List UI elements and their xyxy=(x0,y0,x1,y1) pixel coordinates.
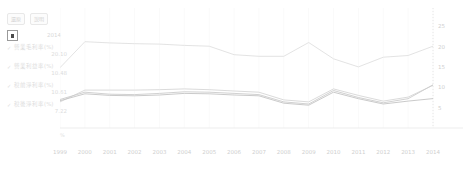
check-icon[interactable]: ✓ xyxy=(7,45,11,51)
check-icon[interactable]: ✓ xyxy=(7,102,11,108)
series-line xyxy=(60,85,433,104)
y-axis-labels: 510152025 xyxy=(430,0,463,173)
x-axis-tick-label: 2009 xyxy=(302,148,316,156)
x-axis-tick-label: 1999 xyxy=(53,148,67,156)
x-axis-tick-label: 2013 xyxy=(401,148,415,156)
help-button[interactable]: 說明 xyxy=(30,13,48,25)
x-axis-tick-label: 2011 xyxy=(351,148,365,156)
x-axis-tick-label: 2006 xyxy=(227,148,241,156)
y-axis-tick-label: 10 xyxy=(438,83,445,91)
series-line xyxy=(60,42,433,68)
filled-square-icon[interactable] xyxy=(7,30,18,41)
check-icon[interactable]: ✓ xyxy=(7,83,11,89)
x-axis-tick-label: 2012 xyxy=(376,148,390,156)
check-icon[interactable]: ✓ xyxy=(7,64,11,70)
x-axis-labels: 1999200020012002200320042005200620072008… xyxy=(0,148,463,160)
y-axis-unit-label: % xyxy=(60,132,65,138)
y-axis-tick-label: 25 xyxy=(438,22,445,30)
x-axis-tick-label: 2007 xyxy=(252,148,266,156)
x-axis-tick-label: 2000 xyxy=(78,148,92,156)
x-axis-tick-label: 2001 xyxy=(103,148,117,156)
x-axis-tick-label: 2005 xyxy=(202,148,216,156)
y-axis-tick-label: 20 xyxy=(438,43,445,51)
x-axis-tick-label: 2002 xyxy=(128,148,142,156)
reset-button[interactable]: 還原 xyxy=(7,13,25,25)
y-axis-tick-label: 5 xyxy=(438,104,442,112)
year-selector[interactable]: 2014 xyxy=(7,30,63,41)
toolbar: 還原 說明 xyxy=(7,13,48,25)
line-chart-svg xyxy=(60,6,463,146)
x-axis-tick-label: 2010 xyxy=(327,148,341,156)
y-axis-tick-label: 15 xyxy=(438,63,445,71)
selected-year-value: 2014 xyxy=(21,31,63,40)
chart-widget: 還原 說明 2014 ✓ 營業毛利率(%) 20.10 ✓ 營業利益率(%) 1… xyxy=(0,0,463,173)
x-axis-tick-label: 2003 xyxy=(152,148,166,156)
x-axis-tick-label: 2008 xyxy=(277,148,291,156)
x-axis-tick-label: 2004 xyxy=(177,148,191,156)
